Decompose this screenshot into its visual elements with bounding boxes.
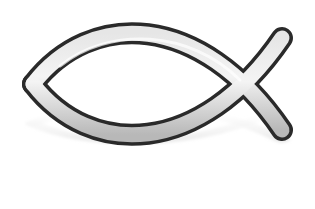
ichthys-icon	[0, 0, 315, 209]
fish-symbol-image	[0, 0, 315, 209]
